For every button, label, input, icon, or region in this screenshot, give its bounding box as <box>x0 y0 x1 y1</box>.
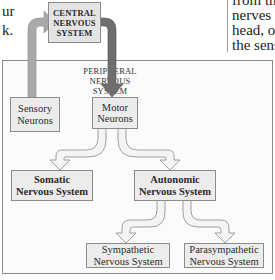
node-sympathetic-nervous-system: Sympathetic Nervous System <box>86 243 170 268</box>
node-label-line: Nervous System <box>139 186 211 198</box>
node-label-line: Parasympathetic <box>189 244 258 256</box>
node-label-line: Neurons <box>97 113 133 125</box>
node-central-nervous-system: CENTRAL NERVOUS SYSTEM <box>48 2 101 43</box>
node-label-line: CENTRAL <box>53 8 96 18</box>
node-label-line: Autonomic <box>139 174 211 186</box>
node-label-line: Motor <box>97 102 133 114</box>
node-autonomic-nervous-system: Autonomic Nervous System <box>134 170 216 201</box>
node-sensory-neurons: Sensory Neurons <box>10 97 60 132</box>
motor-to-autonomic-arrow <box>118 128 180 170</box>
node-motor-neurons: Motor Neurons <box>92 97 138 129</box>
node-label-line: Sensory <box>17 103 53 115</box>
cns-to-motor-arrow <box>100 18 123 97</box>
node-label-line: Neurons <box>17 115 53 127</box>
node-somatic-nervous-system: Somatic Nervous System <box>11 170 93 201</box>
node-label-line: Sympathetic <box>93 244 162 256</box>
node-label-line: Somatic <box>16 174 88 186</box>
autonomic-to-parasympathetic-arrow <box>183 198 235 243</box>
diagram-arrows <box>0 0 275 280</box>
node-label-line: Nervous System <box>93 256 162 268</box>
autonomic-to-sympathetic-arrow <box>116 198 165 243</box>
node-label-line: Nervous System <box>189 256 258 268</box>
node-label-line: SYSTEM <box>53 28 96 38</box>
node-label-line: Nervous System <box>16 186 88 198</box>
node-parasympathetic-nervous-system: Parasympathetic Nervous System <box>184 243 264 268</box>
motor-to-somatic-arrow <box>50 128 106 170</box>
node-label-line: NERVOUS <box>53 18 96 28</box>
